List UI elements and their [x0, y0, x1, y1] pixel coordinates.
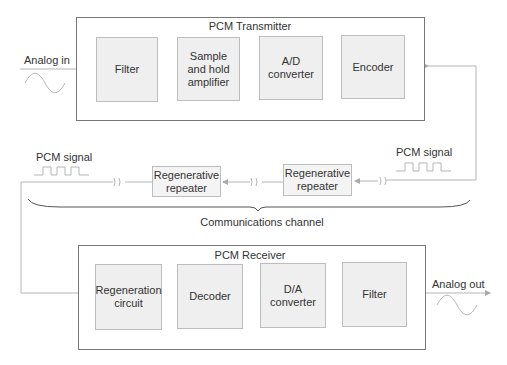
- sample-hold-label: Sample and hold amplifier: [187, 50, 229, 89]
- da-converter-label: D/A converter: [270, 283, 316, 309]
- tx-filter-block: Filter: [96, 37, 158, 102]
- analog-out-label: Analog out: [432, 278, 485, 290]
- rx-filter-label: Filter: [362, 288, 386, 301]
- ad-converter-block: A/D converter: [259, 36, 323, 100]
- rx-filter-block: Filter: [342, 262, 407, 327]
- pcm-receiver-title: PCM Receiver: [215, 249, 286, 261]
- regenerative-repeater-1: Regenerative repeater: [152, 166, 221, 197]
- regeneration-circuit-block: Regeneration circuit: [95, 264, 162, 330]
- ad-converter-label: A/D converter: [268, 55, 314, 81]
- repeater-2-label: Regenerative repeater: [285, 167, 350, 193]
- pcm-transmitter-title: PCM Transmitter: [209, 20, 292, 32]
- da-converter-block: D/A converter: [260, 263, 326, 328]
- pcm-signal-right-label: PCM signal: [396, 146, 452, 158]
- sample-hold-block: Sample and hold amplifier: [177, 37, 240, 101]
- repeater-1-label: Regenerative repeater: [154, 169, 219, 195]
- decoder-block: Decoder: [177, 264, 243, 329]
- channel-brace: [28, 199, 470, 211]
- pcm-signal-right-wave-icon: [396, 163, 451, 171]
- analog-in-label: Analog in: [24, 54, 70, 66]
- pcm-signal-left-label: PCM signal: [36, 151, 92, 163]
- decoder-label: Decoder: [189, 290, 231, 303]
- encoder-block: Encoder: [341, 35, 405, 99]
- regenerative-repeater-2: Regenerative repeater: [283, 164, 352, 196]
- analog-out-sine-icon: [437, 295, 477, 315]
- regeneration-circuit-label: Regeneration circuit: [95, 284, 161, 310]
- communications-channel-label: Communications channel: [200, 216, 324, 228]
- encoder-label: Encoder: [353, 61, 394, 74]
- pcm-signal-left-wave-icon: [34, 167, 89, 175]
- analog-in-sine-icon: [25, 73, 65, 93]
- tx-filter-label: Filter: [115, 63, 139, 76]
